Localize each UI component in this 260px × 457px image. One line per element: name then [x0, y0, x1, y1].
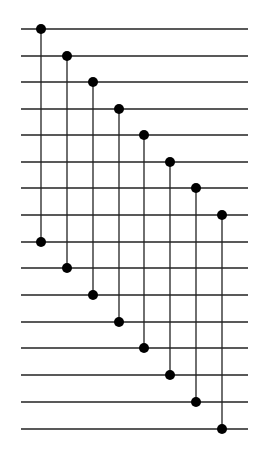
comparator-node — [165, 157, 175, 167]
comparator-node — [62, 263, 72, 273]
comparator-node — [114, 317, 124, 327]
comparator-node — [191, 397, 201, 407]
comparator-node — [217, 424, 227, 434]
comparator-network-diagram — [0, 0, 260, 457]
comparator-node — [217, 210, 227, 220]
comparator-node — [36, 24, 46, 34]
comparator-node — [36, 237, 46, 247]
comparator-node — [114, 104, 124, 114]
comparator-node — [139, 343, 149, 353]
comparator-node — [139, 130, 149, 140]
comparator-node — [191, 183, 201, 193]
comparator-node — [88, 290, 98, 300]
comparator-node — [62, 51, 72, 61]
comparator-node — [88, 77, 98, 87]
comparator-node — [165, 370, 175, 380]
